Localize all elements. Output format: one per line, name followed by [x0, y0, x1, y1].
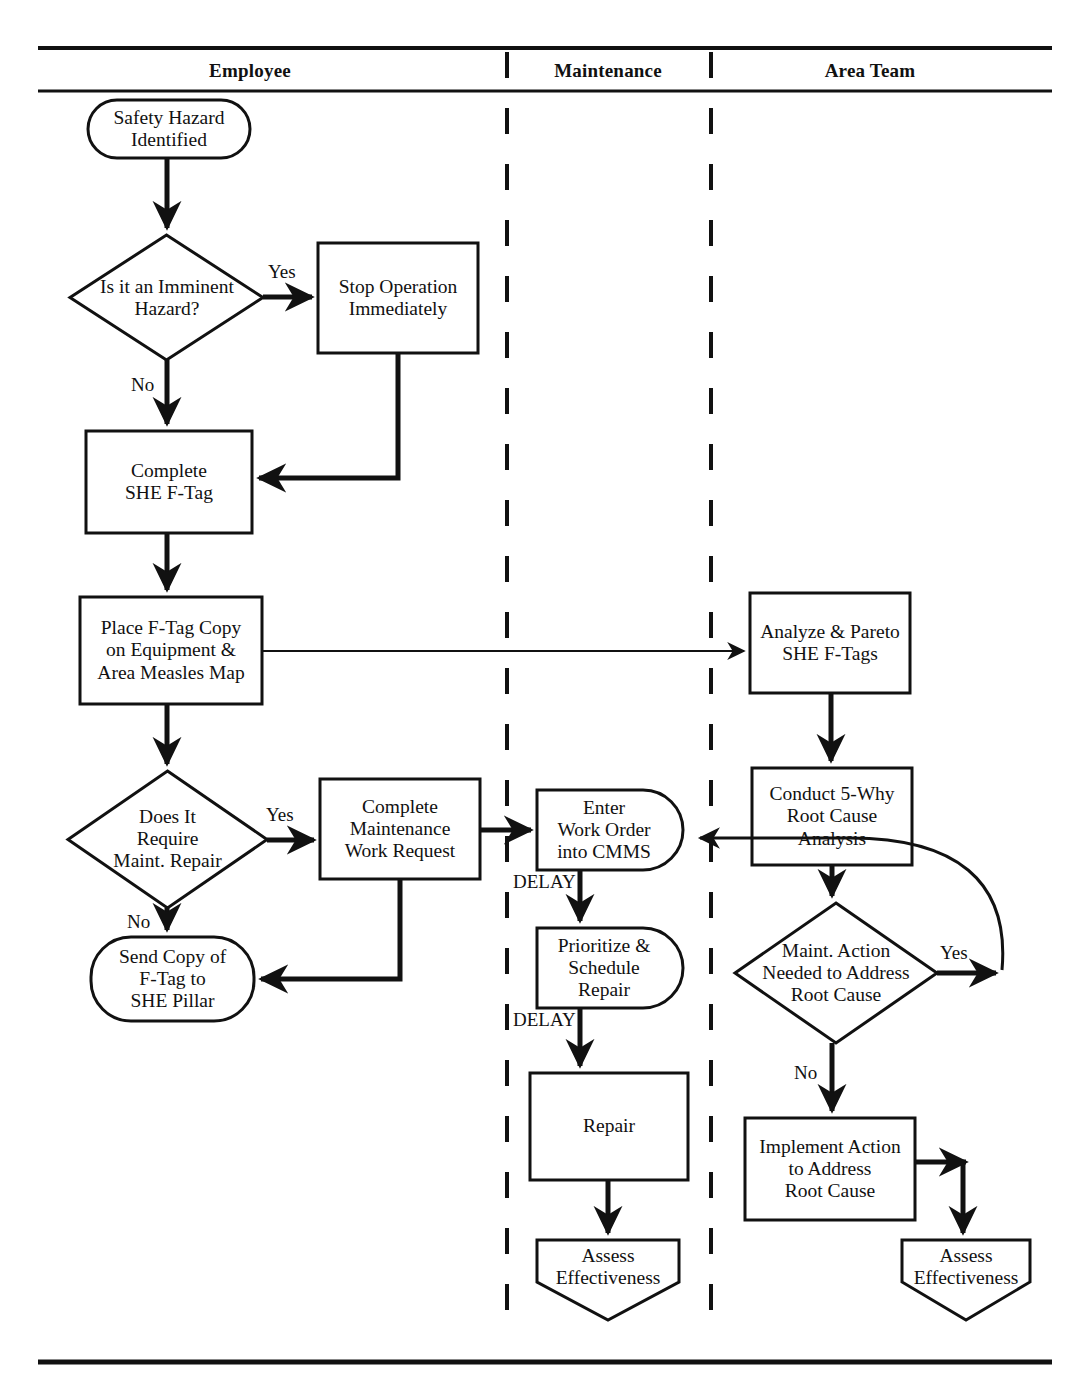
node-safety-hazard-identified[interactable]	[88, 100, 250, 158]
edge-label-maint-action-yes: Yes	[940, 943, 968, 962]
edge-stop-operation-to-complete-ftag	[259, 353, 398, 478]
flowchart-page: Employee Maintenance Area Team Safety Ha…	[0, 0, 1090, 1380]
node-complete-maint-work-request[interactable]	[320, 779, 480, 879]
node-send-copy-ftag-she-pillar[interactable]	[91, 937, 254, 1021]
node-maint-action-needed-question[interactable]	[735, 903, 937, 1043]
node-require-maint-repair-question[interactable]	[68, 771, 267, 908]
node-prioritize-schedule-repair[interactable]	[537, 928, 683, 1008]
node-stop-operation[interactable]	[318, 243, 478, 353]
node-assess-effectiveness-maintenance[interactable]	[537, 1240, 679, 1320]
edge-label-imminent-no: No	[131, 375, 154, 394]
edge-label-require-repair-yes: Yes	[266, 805, 294, 824]
lane-header-maintenance: Maintenance	[508, 60, 708, 82]
node-analyze-pareto-she-ftags[interactable]	[750, 593, 910, 693]
edge-label-imminent-yes: Yes	[268, 262, 296, 281]
edge-label-maint-action-no: No	[794, 1063, 817, 1082]
node-complete-she-ftag[interactable]	[86, 431, 252, 533]
node-assess-effectiveness-area-team[interactable]	[902, 1240, 1030, 1320]
lane-header-area-team: Area Team	[770, 60, 970, 82]
node-conduct-5why-root-cause[interactable]	[752, 768, 912, 865]
node-implement-action-root-cause[interactable]	[745, 1118, 915, 1220]
node-place-ftag-copy[interactable]	[80, 597, 262, 704]
node-enter-work-order-cmms[interactable]	[537, 790, 683, 870]
edge-label-delay-enter-work-order: DELAY	[513, 872, 576, 891]
edge-label-require-repair-no: No	[127, 912, 150, 931]
lane-header-employee: Employee	[150, 60, 350, 82]
node-imminent-hazard-question[interactable]	[70, 235, 263, 360]
edge-label-delay-prioritize: DELAY	[513, 1010, 576, 1029]
edge-work-request-to-send-copy	[261, 879, 400, 979]
node-repair[interactable]	[530, 1073, 688, 1180]
